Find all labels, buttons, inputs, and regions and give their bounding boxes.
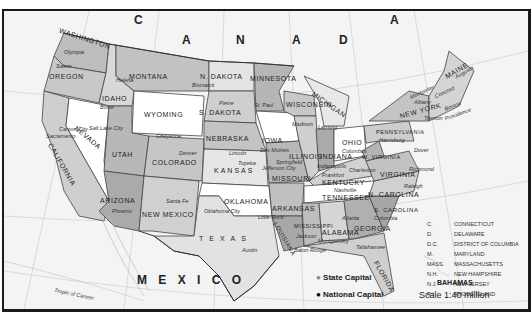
abbr-m: M. xyxy=(427,251,433,257)
abbr-d: D. xyxy=(427,231,433,237)
capital-olympia: Olympia xyxy=(64,49,84,55)
abbr-nj: N.J. xyxy=(427,281,437,287)
state-tennessee: TENNESSEE xyxy=(322,194,370,201)
capital-cheyenne: Cheyenne xyxy=(156,133,181,139)
abbr-massachusetts: MASSACHUSETTS xyxy=(454,261,503,267)
capital-baton-rouge: Baton Rouge xyxy=(294,247,326,253)
state-nebraska: NEBRASKA xyxy=(206,135,249,142)
state-n-dakota: N. DAKOTA xyxy=(200,73,243,80)
capital-jackson: Jackson xyxy=(296,233,316,239)
state-missouri: MISSOURI xyxy=(272,175,311,182)
state-arkansas: ARKANSAS xyxy=(272,205,315,212)
state-capital-label: State Capital xyxy=(323,273,371,282)
capital-lansing: Lansing xyxy=(318,124,337,130)
capital-charleston: Charleston xyxy=(349,167,376,173)
abbr-connecticut: CONNECTICUT xyxy=(454,221,494,227)
label-canada-c: C xyxy=(134,13,147,27)
capital-tallahassee: Tallahassee xyxy=(356,244,385,250)
capital-madison: Madison xyxy=(292,121,313,127)
state-pennsylvania: PENNSYLVANIA xyxy=(376,129,425,135)
label-mexico: M E X I C O xyxy=(137,273,245,287)
capital-carson-city: Carson City xyxy=(59,126,88,132)
capital-little-rock: Little Rock xyxy=(258,214,284,220)
capital-richmond: Richmond xyxy=(409,166,434,172)
map-frame: C A N A D A M E X I C O BAHAMAS Tropic o… xyxy=(2,9,531,312)
scale-label: Scale 1:40 million xyxy=(419,290,490,300)
capital-sacramento: Sacramento xyxy=(46,133,76,139)
state-capital-key: ● State Capital xyxy=(316,273,372,282)
capital-salt-lake-city: Salt Lake City xyxy=(89,125,123,131)
state-w-virginia: W. VIRGINIA xyxy=(362,154,401,160)
capital-dover: Dover xyxy=(414,147,429,153)
abbr-maryland: MARYLAND xyxy=(454,251,484,257)
capital-nashville: Nashville xyxy=(334,187,356,193)
state-arizona: ARIZONA xyxy=(100,197,135,204)
state-utah: UTAH xyxy=(112,151,133,158)
state-s-dakota: S. DAKOTA xyxy=(199,109,241,116)
state-n-carolina: N. CAROLINA xyxy=(368,191,419,198)
capital-salem: Salem xyxy=(56,63,72,69)
state-colorado: COLORADO xyxy=(152,159,197,166)
state-new-mexico: NEW MEXICO xyxy=(142,211,194,218)
abbr-delaware: DELAWARE xyxy=(454,231,484,237)
state-s-carolina: S. CAROLINA xyxy=(374,207,419,213)
capital-columbia: Columbia xyxy=(374,215,397,221)
national-capital-key: ● National Capital xyxy=(316,290,384,299)
abbr-c: C. xyxy=(427,221,433,227)
national-capital-label: National Capital xyxy=(323,290,383,299)
capital-frankfort: Frankfort xyxy=(322,172,344,178)
abbr-new-jersey: NEW JERSEY xyxy=(454,281,490,287)
capital-oklahoma-city: Oklahoma City xyxy=(204,208,240,214)
capital-jefferson-city: Jefferson City xyxy=(262,165,296,171)
state-indiana: INDIANA xyxy=(320,153,353,160)
label-canada-a3: A xyxy=(390,13,403,27)
capital-trenton: Trenton xyxy=(424,115,443,121)
capital-raleigh: Raleigh xyxy=(404,183,423,189)
state-iowa: IOWA xyxy=(262,137,283,144)
capital-denver: Denver xyxy=(179,150,197,156)
state-kentucky: KENTUCKY xyxy=(322,179,365,186)
abbr-nh: N.H. xyxy=(427,271,438,277)
capital-phoenix: Phoenix xyxy=(112,208,132,214)
capital-st-paul: St. Paul xyxy=(254,102,273,108)
capital-bismarck: Bismarck xyxy=(192,82,215,88)
state-kansas: KANSAS xyxy=(214,167,254,174)
state-texas: TEXAS xyxy=(199,235,252,242)
capital-montgomery: Montgomery xyxy=(318,238,349,244)
capital-des-moines: Des Moines xyxy=(260,147,289,153)
capital-topeka: Topeka xyxy=(238,160,256,166)
label-canada-d: D xyxy=(339,33,352,47)
abbr-new-hampshire: NEW HAMPSHIRE xyxy=(454,271,501,277)
state-wyoming: WYOMING xyxy=(144,111,183,118)
capital-atlanta: Atlanta xyxy=(342,215,359,221)
capital-albany: Albany xyxy=(414,99,431,105)
state-georgia: GEORGIA xyxy=(354,225,391,232)
capital-austin: Austin xyxy=(242,247,257,253)
state-ohio: OHIO xyxy=(342,139,362,146)
capital-indianapolis: Indianapolis xyxy=(317,163,346,169)
state-oklahoma: OKLAHOMA xyxy=(224,198,268,205)
map-graphic xyxy=(4,11,528,309)
capital-boise: Boise xyxy=(100,104,114,110)
national-capital-dot-icon: ● xyxy=(316,290,321,299)
label-canada-a2: A xyxy=(292,33,305,47)
capital-santa-fe: Santa Fe xyxy=(166,198,188,204)
label-canada-n: N xyxy=(236,33,249,47)
abbr-district-of-columbia: DISTRICT OF COLUMBIA xyxy=(454,241,519,247)
capital-springfield: Springfield xyxy=(276,159,302,165)
state-minnesota: MINNESOTA xyxy=(250,75,297,82)
state-montana: MONTANA xyxy=(129,73,168,80)
state-capital-dot-icon: ● xyxy=(316,273,321,282)
capital-pierre: Pierre xyxy=(219,100,234,106)
abbr-mass: MASS. xyxy=(427,261,444,267)
capital-lincoln: Lincoln xyxy=(229,150,246,156)
capital-harrisburg: Harrisburg xyxy=(379,137,405,143)
abbr-dc: D.C. xyxy=(427,241,438,247)
state-virginia: VIRGINIA xyxy=(380,171,416,178)
label-canada-a1: A xyxy=(182,33,195,47)
capital-helena: Helena xyxy=(116,77,133,83)
state-oregon: OREGON xyxy=(49,73,84,80)
state-idaho: IDAHO xyxy=(102,95,127,102)
